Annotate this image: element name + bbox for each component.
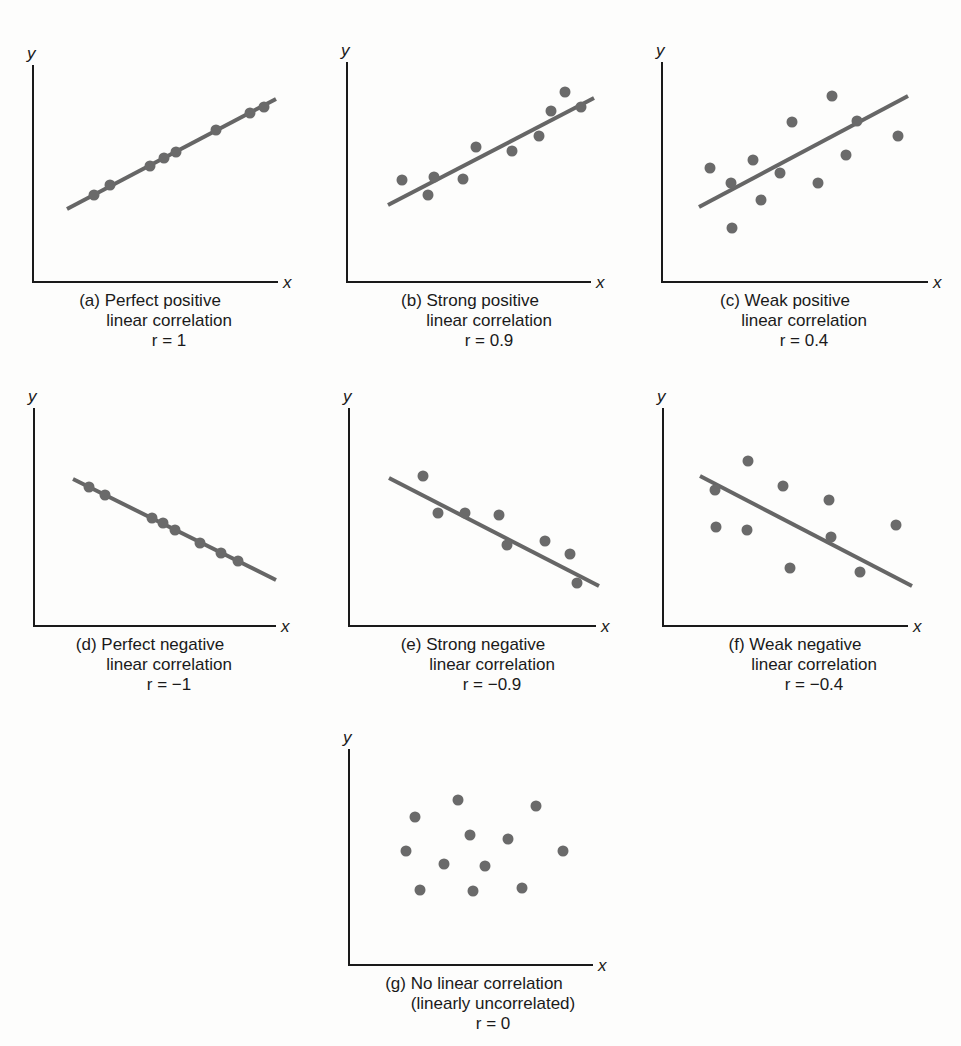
data-point	[195, 538, 206, 549]
y-axis-label: y	[340, 41, 351, 60]
data-point	[775, 168, 786, 179]
data-point	[558, 846, 569, 857]
panel-caption: (a) Perfect positive	[79, 291, 221, 310]
x-axis-label: x	[912, 617, 922, 636]
panel-caption: (f) Weak negative	[729, 635, 862, 654]
panel-caption-line2: linear correlation	[751, 655, 877, 674]
correlation-coefficient: r = 0.4	[780, 331, 829, 350]
data-point	[813, 178, 824, 189]
data-point	[726, 178, 737, 189]
data-point	[743, 456, 754, 467]
panel-caption-line2: linear correlation	[426, 311, 552, 330]
data-point	[170, 525, 181, 536]
data-point	[546, 106, 557, 117]
data-point	[471, 142, 482, 153]
data-point	[756, 195, 767, 206]
x-axis-label: x	[597, 956, 607, 975]
data-point	[147, 513, 158, 524]
x-axis-label: x	[600, 617, 610, 636]
y-axis-label: y	[26, 44, 37, 63]
data-point	[418, 471, 429, 482]
data-point	[852, 116, 863, 127]
correlation-coefficient: r = 1	[152, 331, 187, 350]
panel-caption-line2: linear correlation	[741, 311, 867, 330]
scatter-panel-e: yx(e) Strong negativelinear correlationr…	[342, 387, 610, 694]
axes	[662, 62, 928, 282]
x-axis-label: x	[280, 617, 290, 636]
data-point	[494, 510, 505, 521]
data-point	[742, 525, 753, 536]
data-point	[423, 190, 434, 201]
data-point	[429, 172, 440, 183]
y-axis-label: y	[27, 387, 38, 406]
correlation-coefficient: r = −0.9	[463, 675, 522, 694]
data-point	[576, 102, 587, 113]
scatter-panel-g: yx(g) No linear correlation(linearly unc…	[342, 728, 607, 1033]
data-point	[534, 131, 545, 142]
data-point	[453, 795, 464, 806]
data-point	[503, 834, 514, 845]
data-point	[100, 490, 111, 501]
data-point	[855, 567, 866, 578]
panel-caption: (c) Weak positive	[720, 291, 850, 310]
regression-line	[389, 478, 599, 586]
data-point	[433, 508, 444, 519]
data-point	[824, 495, 835, 506]
x-axis-label: x	[932, 273, 942, 292]
data-point	[216, 548, 227, 559]
panel-caption: (d) Perfect negative	[76, 635, 224, 654]
data-point	[710, 485, 721, 496]
panel-caption-line2: linear correlation	[106, 311, 232, 330]
data-point	[827, 91, 838, 102]
data-point	[159, 153, 170, 164]
data-point	[778, 481, 789, 492]
axes	[33, 65, 278, 282]
x-axis-label: x	[595, 273, 605, 292]
scatter-panel-c: yx(c) Weak positivelinear correlationr =…	[655, 41, 942, 350]
panel-caption-line2: (linearly uncorrelated)	[411, 994, 575, 1013]
data-point	[233, 556, 244, 567]
panel-caption-line2: linear correlation	[429, 655, 555, 674]
scatter-panel-d: yx(d) Perfect negativelinear correlation…	[27, 387, 290, 694]
correlation-coefficient: r = 0.9	[465, 331, 514, 350]
data-point	[841, 150, 852, 161]
data-point	[517, 883, 528, 894]
correlation-coefficient: r = −0.4	[785, 675, 844, 694]
regression-line	[388, 98, 594, 205]
data-point	[89, 190, 100, 201]
y-axis-label: y	[342, 387, 353, 406]
data-point	[711, 522, 722, 533]
y-axis-label: y	[656, 387, 667, 406]
data-point	[259, 102, 270, 113]
scatter-panel-f: yx(f) Weak negativelinear correlationr =…	[656, 387, 922, 694]
axes	[663, 408, 908, 626]
data-point	[410, 812, 421, 823]
data-point	[531, 801, 542, 812]
data-point	[565, 549, 576, 560]
data-point	[468, 886, 479, 897]
data-point	[439, 859, 450, 870]
y-axis-label: y	[655, 41, 666, 60]
axes	[347, 62, 591, 282]
data-point	[105, 180, 116, 191]
data-point	[507, 146, 518, 157]
data-point	[465, 830, 476, 841]
data-point	[460, 508, 471, 519]
data-point	[415, 885, 426, 896]
data-point	[171, 147, 182, 158]
data-point	[480, 861, 491, 872]
panel-caption: (b) Strong positive	[401, 291, 539, 310]
data-point	[748, 155, 759, 166]
correlation-coefficient: r = −1	[147, 675, 191, 694]
data-point	[401, 846, 412, 857]
x-axis-label: x	[282, 273, 292, 292]
data-point	[727, 223, 738, 234]
data-point	[705, 163, 716, 174]
axes	[349, 749, 593, 965]
data-point	[826, 532, 837, 543]
correlation-coefficient: r = 0	[476, 1014, 511, 1033]
correlation-figure: yx(a) Perfect positivelinear correlation…	[0, 0, 961, 1046]
data-point	[560, 87, 571, 98]
panel-caption: (e) Strong negative	[401, 635, 546, 654]
data-point	[785, 563, 796, 574]
